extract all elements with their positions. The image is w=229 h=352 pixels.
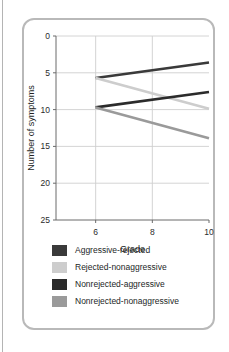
legend-label: Rejected-nonaggressive bbox=[75, 262, 167, 273]
y-axis-title: Number of symptoms bbox=[26, 85, 36, 171]
legend-item: Rejected-nonaggressive bbox=[52, 259, 217, 276]
legend-swatch-aggressive-rejected bbox=[52, 245, 67, 256]
x-tick-label: 8 bbox=[150, 227, 155, 237]
y-tick-label: 20 bbox=[41, 178, 51, 188]
chart-legend: Aggressive-rejected Rejected-nonaggressi… bbox=[52, 242, 217, 310]
plot-area: 25201510506810GradeNumber of symptoms bbox=[24, 20, 217, 260]
y-tick-label: 25 bbox=[41, 215, 51, 225]
legend-item: Nonrejected-aggressive bbox=[52, 276, 217, 293]
y-tick-label: 10 bbox=[41, 105, 51, 115]
y-tick-label: 0 bbox=[45, 31, 50, 41]
legend-swatch-nonrejected-aggressive bbox=[52, 279, 67, 290]
x-tick-label: 6 bbox=[93, 227, 98, 237]
page-edge-line bbox=[2, 0, 3, 352]
legend-label: Nonrejected-nonaggressive bbox=[75, 296, 179, 307]
y-tick-label: 15 bbox=[41, 141, 51, 151]
figure-frame: 25201510506810GradeNumber of symptoms Ag… bbox=[22, 18, 215, 330]
legend-item: Nonrejected-nonaggressive bbox=[52, 293, 217, 310]
line-chart: 25201510506810GradeNumber of symptoms bbox=[24, 20, 217, 260]
x-tick-label: 10 bbox=[204, 227, 214, 237]
legend-swatch-nonrejected-nonaggressive bbox=[52, 296, 67, 307]
legend-label: Nonrejected-aggressive bbox=[75, 279, 165, 290]
legend-swatch-rejected-nonaggressive bbox=[52, 262, 67, 273]
legend-item: Aggressive-rejected bbox=[52, 242, 217, 259]
y-tick-label: 5 bbox=[45, 68, 50, 78]
legend-label: Aggressive-rejected bbox=[75, 245, 150, 256]
